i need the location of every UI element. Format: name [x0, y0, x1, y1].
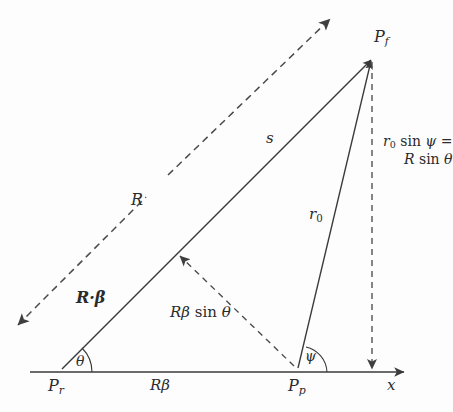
label-field-height-line2: R sin θ — [404, 151, 453, 167]
label-point-pp: Pp — [288, 376, 306, 397]
label-axis-x: x — [387, 376, 395, 394]
label-point-pf: Pf — [374, 27, 389, 48]
label-point-pr: Pr — [48, 376, 64, 397]
label-segment-s: s — [266, 129, 274, 147]
segment-s-line — [62, 60, 371, 369]
label-r-beta-sin-theta: Rβ sin θ — [170, 303, 231, 321]
label-field-height: r0 sin ψ = R sin θ — [383, 133, 453, 168]
label-angle-theta: θ — [76, 353, 84, 370]
label-baseline-r-beta: Rβ — [150, 376, 170, 394]
label-field-height-line1: r0 sin ψ = — [383, 133, 453, 149]
label-vector-R: R — [131, 190, 143, 210]
label-segment-r0: r0 — [309, 205, 323, 225]
vector-R-upper-part — [168, 19, 330, 175]
label-vector-R-beta: R·β — [76, 288, 106, 308]
label-angle-psi: ψ — [305, 348, 316, 365]
